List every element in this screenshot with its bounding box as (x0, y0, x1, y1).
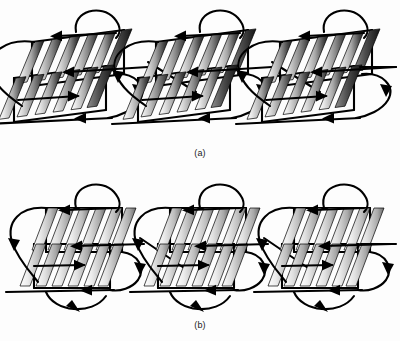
panel-b-cell-2 (130, 185, 270, 312)
panel-b-cell-1 (6, 185, 146, 312)
figure-container: (a) (b) (0, 0, 400, 341)
panel-a-cell-1 (0, 10, 148, 124)
panel-b-cell-3 (254, 185, 394, 312)
panel-b (6, 185, 396, 312)
metamaterial-diagram (0, 0, 400, 341)
caption-panel-a: (a) (0, 148, 400, 158)
panel-a (0, 10, 396, 124)
caption-panel-b: (b) (0, 320, 400, 330)
